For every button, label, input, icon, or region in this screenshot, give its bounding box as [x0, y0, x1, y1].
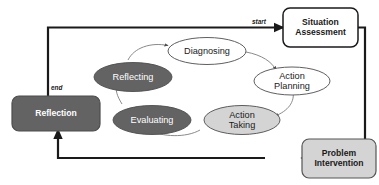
situation-assessment-hit-area[interactable] — [283, 8, 358, 47]
action-taking-hit-area[interactable] — [204, 106, 280, 135]
action-planning-hit-area[interactable] — [254, 67, 330, 95]
reflecting-hit-area[interactable] — [94, 63, 172, 92]
evaluating-hit-area[interactable] — [113, 106, 191, 135]
diagnosing-hit-area[interactable] — [168, 38, 246, 65]
diagram-canvas: Situation Assessment Problem Interventio… — [0, 0, 379, 185]
reflection-hit-area[interactable] — [12, 96, 100, 131]
edge-reflecting-to-diagnosing — [128, 45, 168, 60]
problem-intervention-hit-area[interactable] — [302, 139, 376, 178]
